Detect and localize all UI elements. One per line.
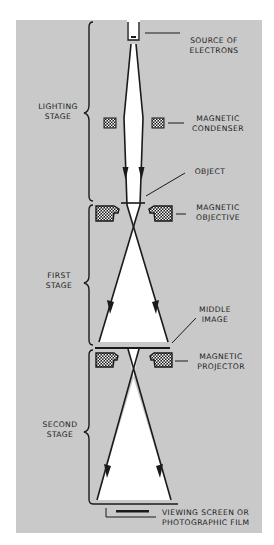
- label-viewing-screen: VIEWING SCREEN ORPHOTOGRAPHIC FILM: [162, 508, 258, 528]
- condenser-coils: [104, 118, 184, 128]
- label-magnetic-projector: MAGNETICPROJECTOR: [190, 352, 252, 372]
- label-object: OBJECT: [190, 167, 230, 177]
- label-middle-image: MIDDLEIMAGE: [194, 305, 236, 325]
- first-stage-beam: [99, 205, 168, 342]
- second-stage-beam: [97, 349, 171, 500]
- label-magnetic-objective: MAGNETICOBJECTIVE: [188, 203, 248, 223]
- objective-coils: [96, 206, 186, 221]
- second-stage-brace: [84, 350, 93, 504]
- electron-source: [127, 8, 180, 40]
- first-stage-brace: [84, 205, 93, 345]
- stage-label-second: SECONDSTAGE: [38, 420, 82, 440]
- label-source-of-electrons: SOURCE OFELECTRONS: [184, 36, 244, 56]
- label-magnetic-condenser: MAGNETICCONDENSER: [186, 114, 250, 134]
- projector-coils: [96, 353, 188, 367]
- stage-label-lighting: LIGHTINGSTAGE: [34, 102, 82, 122]
- stage-label-first: FIRSTSTAGE: [40, 271, 78, 291]
- stage-braces: [84, 22, 93, 504]
- lighting-beam: [123, 44, 145, 205]
- lighting-stage-brace: [84, 22, 93, 201]
